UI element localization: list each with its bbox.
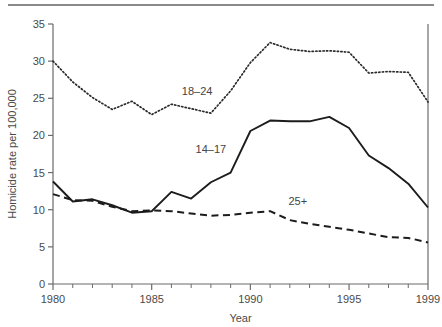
y-axis-tick-label: 30 bbox=[33, 55, 45, 67]
x-axis-tick-label: 1980 bbox=[41, 293, 65, 305]
y-axis-tick-label: 25 bbox=[33, 92, 45, 104]
y-axis-tick-label: 10 bbox=[33, 204, 45, 216]
x-axis-title: Year bbox=[229, 312, 252, 324]
x-axis-tick-label: 1999 bbox=[416, 293, 440, 305]
series-label-18-24: 18–24 bbox=[182, 85, 213, 97]
x-axis-tick-label: 1985 bbox=[139, 293, 163, 305]
series-line-14-17 bbox=[53, 117, 428, 213]
x-axis-tick-label: 1990 bbox=[238, 293, 262, 305]
chart-figure: 0510152025303519801985199019951999YearHo… bbox=[0, 0, 442, 327]
y-axis-tick-label: 15 bbox=[33, 167, 45, 179]
y-axis-tick-label: 20 bbox=[33, 129, 45, 141]
x-axis-tick-label: 1995 bbox=[337, 293, 361, 305]
series-line-25+ bbox=[53, 194, 428, 242]
y-axis-title: Homicide rate per 100,000 bbox=[6, 89, 18, 219]
series-label-25+: 25+ bbox=[288, 195, 307, 207]
y-axis-tick-label: 35 bbox=[33, 18, 45, 30]
y-axis-tick-label: 5 bbox=[39, 241, 45, 253]
line-chart-plot: 0510152025303519801985199019951999YearHo… bbox=[0, 0, 442, 327]
series-label-14-17: 14–17 bbox=[196, 143, 227, 155]
y-axis-tick-label: 0 bbox=[39, 278, 45, 290]
series-line-18-24 bbox=[53, 43, 428, 115]
